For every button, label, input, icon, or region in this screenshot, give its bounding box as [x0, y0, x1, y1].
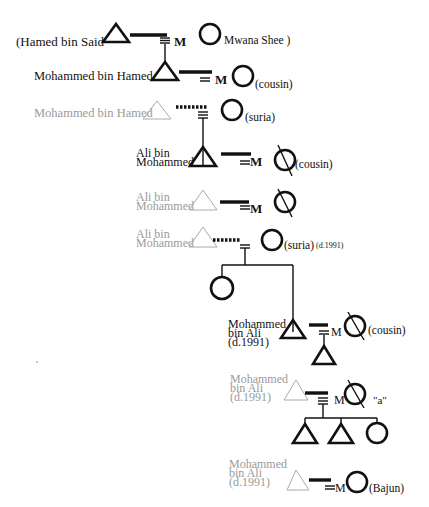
male-label-line2: Mohammed — [136, 236, 194, 250]
male-label-line2: Mohammed — [136, 199, 194, 213]
genealogy-diagram: (Hamed bin Said M Mwana Shee ) Mohammed … — [0, 0, 429, 507]
deceased-female-icon — [345, 380, 365, 408]
female-note: (d.1991) — [316, 241, 344, 250]
child-male-triangle-icon — [329, 424, 353, 443]
male-label-line3: (d.1991) — [228, 335, 269, 349]
child-male-triangle-icon — [313, 346, 335, 364]
child-female-circle-icon — [367, 423, 387, 443]
female-label: Mwana Shee ) — [224, 34, 291, 47]
stray-mark — [36, 361, 38, 363]
deceased-female-icon — [345, 312, 365, 340]
female-label: (suria) — [284, 239, 314, 252]
union-hamed-bin-said: (Hamed bin Said M Mwana Shee ) — [16, 24, 291, 62]
female-label: "a" — [373, 394, 387, 406]
union-ali-bin-mohammed-second: Ali bin Mohammed M — [136, 189, 295, 217]
female-circle-icon — [347, 472, 367, 492]
union-mohammed-bin-ali-a: Mohammed bin Ali (d.1991) M "a" — [230, 372, 387, 443]
marriage-marker: M — [334, 393, 345, 407]
male-triangle-icon — [152, 62, 178, 80]
child-male-triangle-icon — [293, 424, 317, 443]
male-label-line2: Mohammed — [136, 155, 194, 169]
male-label: (Hamed bin Said — [16, 34, 105, 49]
deceased-female-icon — [275, 189, 295, 217]
marriage-marker: M — [174, 34, 186, 49]
deceased-female-icon — [275, 145, 295, 176]
male-label-line3: (d.1991) — [229, 475, 270, 489]
male-triangle-icon — [103, 24, 129, 42]
male-label: Mohammed bin Hamed — [34, 69, 153, 83]
marriage-marker: M — [250, 201, 262, 216]
female-circle-icon — [262, 230, 282, 250]
union-ali-bin-mohammed-cousin: Ali bin Mohammed M (cousin) — [136, 145, 333, 176]
female-circle-icon — [222, 100, 242, 120]
female-label: (Bajun) — [369, 482, 404, 495]
union-mohammed-bin-ali-bajun: Mohammed bin Ali (d.1991) M (Bajun) — [229, 457, 404, 495]
marriage-marker: M — [335, 481, 346, 495]
female-label: (cousin) — [368, 324, 406, 337]
marriage-marker: M — [331, 325, 342, 339]
union-mohammed-bin-hamed-cousin: Mohammed bin Hamed M (cousin) — [34, 62, 293, 91]
marriage-marker: M — [215, 72, 227, 87]
union-mohammed-bin-ali-cousin: Mohammed bin Ali (d.1991) M (cousin) — [228, 312, 406, 364]
marriage-marker: M — [250, 154, 262, 169]
male-triangle-icon — [287, 470, 309, 490]
male-label: Mohammed bin Hamed — [34, 106, 153, 120]
female-circle-icon — [233, 66, 253, 86]
child-female-circle-icon — [211, 277, 233, 299]
female-circle-icon — [200, 24, 220, 44]
female-label: (cousin) — [255, 78, 293, 91]
female-label: (cousin) — [295, 158, 333, 171]
female-label: (suria) — [245, 111, 275, 124]
male-label-line3: (d.1991) — [230, 390, 271, 404]
